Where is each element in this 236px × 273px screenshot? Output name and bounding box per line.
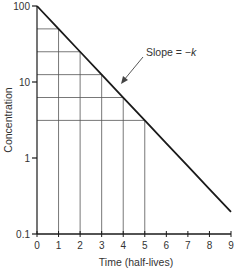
y-tick-label: 100: [13, 1, 30, 12]
concentration-series: [37, 6, 231, 212]
x-tick-label: 5: [142, 240, 148, 251]
x-tick-label: 6: [164, 240, 170, 251]
x-tick-label: 4: [120, 240, 126, 251]
y-tick-label: 0.1: [16, 229, 30, 240]
slope-label: Slope = −k: [146, 46, 197, 58]
y-axis-title: Concentration: [2, 87, 14, 153]
annotation-arrow-shaft: [124, 57, 143, 80]
arrow-head-icon: [121, 76, 128, 84]
x-tick-label: 1: [56, 240, 62, 251]
half-life-chart: 0123456789 0.1110100 Time (half-lives) C…: [0, 0, 236, 273]
x-tick-label: 3: [99, 240, 105, 251]
half-life-guides: [37, 29, 145, 234]
x-axis-title: Time (half-lives): [99, 256, 173, 268]
x-tick-label: 7: [185, 240, 191, 251]
y-tick-label: 1: [24, 153, 30, 164]
slope-annotation: Slope = −k: [121, 46, 197, 84]
x-tick-label: 8: [207, 240, 213, 251]
concentration-line: [37, 6, 231, 212]
x-tick-label: 9: [228, 240, 234, 251]
x-tick-label: 0: [34, 240, 40, 251]
y-axis-ticks: 0.1110100: [13, 1, 37, 240]
x-tick-label: 2: [77, 240, 83, 251]
y-tick-label: 10: [19, 77, 31, 88]
